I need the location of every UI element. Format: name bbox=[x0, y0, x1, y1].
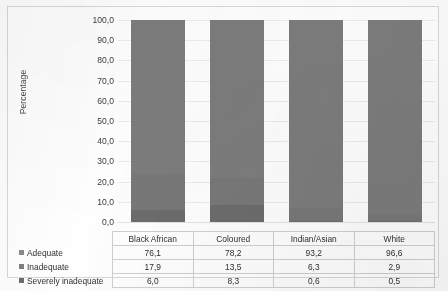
table-cell: 6,3 bbox=[274, 260, 355, 274]
table-cell: 0,6 bbox=[274, 274, 355, 288]
y-tick-label: 0,0 bbox=[62, 218, 114, 227]
y-tick-label: 60,0 bbox=[62, 96, 114, 105]
bar-white bbox=[368, 20, 422, 222]
bar-indian-asian bbox=[289, 20, 343, 222]
table-cell: 2,9 bbox=[354, 260, 435, 274]
bar-segment-severely-inadequate bbox=[289, 221, 343, 222]
y-tick-label: 20,0 bbox=[62, 177, 114, 186]
y-tick-label: 40,0 bbox=[62, 137, 114, 146]
bar-segment-severely-inadequate bbox=[210, 205, 264, 222]
bar-coloured bbox=[210, 20, 264, 222]
legend-label: Severely inadequate bbox=[27, 276, 103, 286]
y-tick-label: 90,0 bbox=[62, 36, 114, 45]
column-header: Indian/Asian bbox=[274, 232, 355, 246]
table-header-row: Black AfricanColouredIndian/AsianWhite bbox=[16, 232, 435, 246]
column-header: White bbox=[354, 232, 435, 246]
bar-black-african bbox=[131, 20, 185, 222]
y-axis-tick-labels: 100,090,080,070,060,050,040,030,020,010,… bbox=[62, 20, 114, 222]
bar-segment-adequate bbox=[289, 20, 343, 208]
bar-segment-adequate bbox=[368, 20, 422, 215]
y-tick-label: 100,0 bbox=[62, 16, 114, 25]
legend-swatch-icon bbox=[19, 264, 24, 269]
y-tick-label: 10,0 bbox=[62, 197, 114, 206]
table-cell: 8,3 bbox=[193, 274, 274, 288]
column-header: Coloured bbox=[193, 232, 274, 246]
table-row: Inadequate17,913,56,32,9 bbox=[16, 260, 435, 274]
column-header: Black African bbox=[113, 232, 194, 246]
y-tick-label: 70,0 bbox=[62, 76, 114, 85]
chart-page: Percentage 100,090,080,070,060,050,040,0… bbox=[0, 0, 448, 291]
y-tick-label: 50,0 bbox=[62, 117, 114, 126]
bar-segment-severely-inadequate bbox=[368, 221, 422, 222]
y-axis-title: Percentage bbox=[18, 42, 32, 142]
table-cell: 13,5 bbox=[193, 260, 274, 274]
axis-baseline bbox=[118, 222, 435, 223]
legend-label: Inadequate bbox=[27, 262, 69, 272]
legend-swatch-icon bbox=[19, 278, 24, 283]
legend-item-severely-inadequate[interactable]: Severely inadequate bbox=[16, 274, 113, 288]
legend-item-inadequate[interactable]: Inadequate bbox=[16, 260, 113, 274]
data-table: Black AfricanColouredIndian/AsianWhiteAd… bbox=[16, 231, 435, 288]
legend-item-adequate[interactable]: Adequate bbox=[16, 246, 113, 260]
table-row: Severely inadequate6,08,30,60,5 bbox=[16, 274, 435, 288]
table-cell: 93,2 bbox=[274, 246, 355, 260]
table-cell: 0,5 bbox=[354, 274, 435, 288]
plot-canvas bbox=[118, 20, 435, 222]
y-tick-label: 30,0 bbox=[62, 157, 114, 166]
data-table-body: Black AfricanColouredIndian/AsianWhiteAd… bbox=[16, 232, 435, 288]
table-cell: 6,0 bbox=[113, 274, 194, 288]
bar-segment-adequate bbox=[131, 20, 185, 174]
table-cell: 76,1 bbox=[113, 246, 194, 260]
y-tick-label: 80,0 bbox=[62, 56, 114, 65]
bar-segment-inadequate bbox=[289, 208, 343, 221]
table-cell: 17,9 bbox=[113, 260, 194, 274]
legend-swatch-icon bbox=[19, 250, 24, 255]
table-corner-cell bbox=[16, 232, 113, 246]
bar-segment-inadequate bbox=[210, 178, 264, 205]
bar-segment-adequate bbox=[210, 20, 264, 178]
table-cell: 96,6 bbox=[354, 246, 435, 260]
table-row: Adequate76,178,293,296,6 bbox=[16, 246, 435, 260]
legend-label: Adequate bbox=[27, 248, 63, 258]
bar-segment-severely-inadequate bbox=[131, 210, 185, 222]
bar-segment-inadequate bbox=[131, 174, 185, 210]
chart-frame: Percentage 100,090,080,070,060,050,040,0… bbox=[7, 6, 439, 278]
plot-area: Percentage 100,090,080,070,060,050,040,0… bbox=[8, 7, 440, 231]
table-cell: 78,2 bbox=[193, 246, 274, 260]
